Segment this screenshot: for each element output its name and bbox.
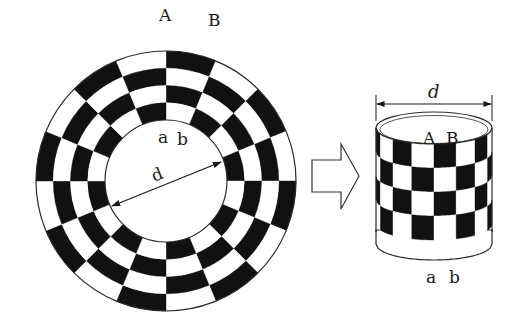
cylinder-cell bbox=[393, 211, 412, 238]
label-a-cylinder: a bbox=[426, 267, 436, 287]
diagram-svg: A B a b d d A B a b bbox=[0, 0, 525, 328]
annular-checkerboard bbox=[36, 51, 296, 311]
label-b-inner: b bbox=[177, 129, 188, 149]
cylinder-cell bbox=[456, 163, 475, 190]
cylinder-cell bbox=[456, 211, 475, 238]
cylinder-cell bbox=[412, 191, 434, 216]
label-A-outer: A bbox=[158, 5, 172, 25]
cylinder-cell bbox=[434, 215, 456, 240]
transform-arrow-icon bbox=[312, 144, 359, 209]
cylinder-cell bbox=[412, 167, 434, 192]
cylinder-cell bbox=[456, 139, 475, 166]
label-B-outer: B bbox=[208, 10, 221, 30]
cylinder-cell bbox=[456, 187, 475, 214]
label-A-cylinder: A bbox=[422, 128, 436, 148]
diagram-canvas: A B a b d d A B a b bbox=[0, 0, 525, 328]
cylinder-cell bbox=[434, 167, 456, 192]
cylinder-cell bbox=[393, 163, 412, 190]
cylinder-cell bbox=[393, 139, 412, 166]
cylinder-cell bbox=[434, 191, 456, 216]
cylinder-cell bbox=[412, 215, 434, 240]
label-b-cylinder: b bbox=[449, 267, 460, 287]
label-B-cylinder: B bbox=[446, 128, 459, 148]
label-a-inner: a bbox=[158, 127, 168, 147]
label-d-cylinder: d bbox=[428, 81, 440, 102]
cylinder-cell bbox=[393, 187, 412, 214]
